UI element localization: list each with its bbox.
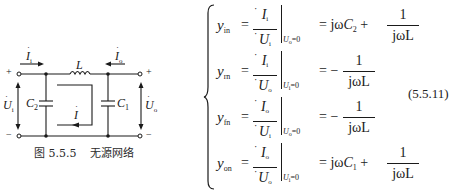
figure-title: 无源网络 [90, 147, 134, 160]
rhs-fraction: 1 jωL [343, 99, 375, 136]
capacitor-c1-label: C1 [117, 96, 129, 112]
admittance-equations: yin = ·Ii ·Ui Uo=0 = jωC2 + 1 jωL yrn = … [203, 3, 413, 191]
figure-number: 图 5.5.5 [34, 147, 77, 160]
rhs-expression: = jωC2 + [319, 17, 368, 34]
equation-row-yon: yon = ·Io ·Uo Ui=0 = jωC1 + 1 jωL [217, 143, 417, 187]
terminal-in-minus [17, 134, 21, 138]
minus-left-label: − [6, 129, 12, 140]
rhs-expression: = − [319, 63, 338, 79]
minus-right-label: − [146, 129, 152, 140]
ratio-fraction: ·Ii ·Uo [253, 53, 277, 98]
loop-current-label: · I [74, 108, 78, 123]
lhs: yin [217, 17, 230, 35]
equation-row-yrn: yrn = ·Ii ·Uo Ui=0 = − 1 jωL [217, 51, 417, 95]
circuit-figure: + − + − · Ii · Io L C2 C1 · I · Ui · Uo … [0, 0, 200, 193]
equation-row-yin: yin = ·Ii ·Ui Uo=0 = jωC2 + 1 jωL [217, 5, 417, 49]
inductor-label: L [76, 58, 83, 73]
evaluation-bar [281, 5, 282, 43]
ratio-fraction: ·Io ·Ui [253, 99, 277, 144]
rhs-expression: = − [319, 109, 338, 125]
input-voltage-label: · Ui [3, 98, 14, 114]
terminal-out-plus [138, 72, 142, 76]
capacitor-c2-label: C2 [26, 96, 38, 112]
evaluation-bar [281, 51, 282, 89]
condition: Ui=0 [283, 173, 299, 183]
condition: Uo=0 [283, 127, 300, 137]
condition: Ui=0 [283, 81, 299, 91]
ratio-fraction: ·Ii ·Ui [253, 7, 277, 52]
terminal-out-minus [138, 134, 142, 138]
figure-caption: 图 5.5.5 无源网络 [34, 144, 134, 160]
rhs-expression: = jωC1 + [319, 155, 368, 172]
terminal-in-plus [17, 72, 21, 76]
evaluation-bar [281, 97, 282, 135]
rhs-fraction: 1 jωL [387, 145, 419, 182]
lhs: yon [217, 155, 232, 173]
evaluation-bar [281, 143, 282, 181]
output-current-label: · Io [115, 49, 123, 65]
equation-row-yfn: yfn = ·Io ·Ui Uo=0 = − 1 jωL [217, 97, 417, 141]
equation-number: (5.5.11) [408, 86, 449, 102]
rhs-fraction: 1 jωL [343, 53, 375, 90]
output-voltage-label: · Uo [145, 98, 157, 114]
plus-right-label: + [146, 66, 152, 77]
condition: Uo=0 [283, 35, 300, 45]
input-current-label: · Ii [26, 49, 32, 65]
ratio-fraction: ·Io ·Uo [253, 145, 277, 190]
plus-left-label: + [6, 66, 12, 77]
left-brace [203, 3, 217, 191]
rhs-fraction: 1 jωL [387, 7, 419, 44]
lhs: yrn [217, 63, 230, 81]
lhs: yfn [217, 109, 230, 127]
